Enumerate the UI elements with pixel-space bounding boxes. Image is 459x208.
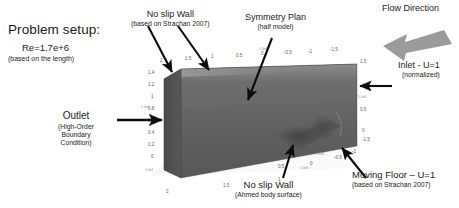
no-slip-wall-top-text: No slip Wall [147, 9, 194, 19]
outlet-note-3: Condition) [38, 139, 114, 147]
flow-direction-arrow [383, 30, 452, 61]
no-slip-wall-bottom-note: (Ahmed body surface) [235, 191, 302, 199]
outlet-note-2: Boundary [38, 131, 114, 139]
flow-direction-text: Flow Direction [382, 3, 439, 13]
reynolds-note: (based on the length) [8, 55, 100, 62]
arrow-symmetry-plan [248, 38, 272, 100]
outlet-text: Outlet [63, 110, 90, 121]
no-slip-wall-bottom-text: No slip Wall [244, 179, 294, 190]
page-title: Problem setup: [8, 22, 100, 37]
label-flow-direction: Flow Direction [382, 3, 439, 13]
no-slip-wall-top-note: (based on Strachan 2007) [131, 20, 210, 28]
figure-canvas: 2 1.5 1 0.5 0 -0.5 -1 -1.5 1.4e4 1.4 1.2… [0, 0, 459, 208]
label-no-slip-wall-bottom: No slip Wall (Ahmed body surface) [235, 180, 302, 199]
moving-floor-note: (based on Strachan 2007) [352, 181, 435, 189]
symmetry-plan-text: Symmetry Plan [245, 12, 306, 22]
label-inlet: Inlet - U=1 (normalized) [398, 60, 440, 79]
arrow-no-slip-wall-top-left [148, 26, 172, 72]
outlet-note-1: (High-Order [38, 123, 114, 131]
label-symmetry-plan: Symmetry Plan (half model) [245, 12, 306, 31]
moving-floor-text: Moving Floor – U=1 [352, 169, 435, 180]
inlet-note: (normalized) [398, 71, 440, 79]
label-no-slip-wall-top: No slip Wall (based on Strachan 2007) [131, 9, 210, 28]
reynolds-number: Re=1.7e+6 [22, 42, 100, 53]
label-outlet: Outlet (High-Order Boundary Condition) [38, 110, 114, 148]
inlet-text: Inlet - U=1 [398, 60, 440, 70]
arrow-no-slip-wall-bottom [283, 145, 293, 178]
arrow-no-slip-wall-top-right [178, 26, 209, 70]
symmetry-plan-note: (half model) [245, 23, 306, 31]
problem-setup-block: Problem setup: Re=1.7e+6 (based on the l… [8, 22, 100, 62]
label-moving-floor: Moving Floor – U=1 (based on Strachan 20… [352, 170, 435, 189]
